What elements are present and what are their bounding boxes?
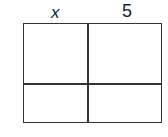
grid-box [23,23,162,123]
vertical-divider [87,24,89,122]
column-label-5: 5 [122,3,132,20]
cell-r1-c1 [24,24,87,83]
column-label-x: x [51,4,60,21]
cell-r1-c2 [89,24,161,83]
horizontal-divider [24,83,161,85]
cell-r2-c1 [24,85,87,122]
cell-r2-c2 [89,85,161,122]
